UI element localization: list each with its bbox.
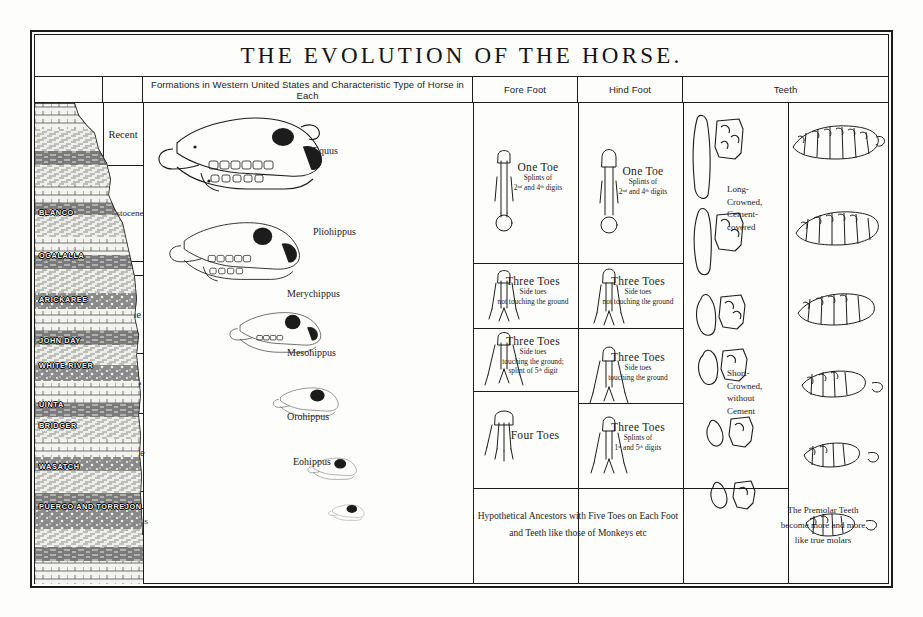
forefoot-3-sub1: Side toes [491,347,575,357]
forefoot-2-sub2: not touching the ground [491,297,575,307]
hindfoot-caption-4: Three Toes Splints of 1ˢᵗ and 5ᵗʰ digits [595,421,681,452]
header-era [35,77,103,102]
forefoot-caption-4: Four Toes [495,429,575,441]
tooth-crown-eohippus [711,481,755,509]
genus-label-merychippus: Merychippus [287,288,340,299]
chart-body: Quaternary or Age of Man Tertiary or Age… [35,103,888,584]
genus-label-equus: Equus [313,145,338,156]
molar-arcade-merychippus [798,294,874,325]
title-band: THE EVOLUTION OF THE HORSE. [35,35,888,77]
skull-equus [159,118,321,191]
forefoot-2-title: Three Toes [491,275,575,287]
header-fore-foot: Fore Foot [473,77,578,102]
skull-pliohippus [170,223,300,281]
premolar-caption-line3: like true molars [758,533,888,548]
hindfoot-4-sub1: Splints of [595,433,681,443]
teeth-note-short-crowned: Short- Crowned, without Cement [727,367,787,417]
forefoot-4-title: Four Toes [495,429,575,441]
hindfoot-caption-3: Three Toes Side toes touching the ground [595,351,681,382]
teeth-note-1-line4: covered [727,221,787,234]
molar-arcade-orohippus [804,443,879,467]
tooth-crown-orohippus [707,417,753,447]
forefoot-caption-2: Three Toes Side toes not touching the gr… [491,275,575,306]
genus-label-mesohippus: Mesohippus [287,347,336,358]
premolar-caption-line2: become more and more [758,518,888,533]
chart-sheet: THE EVOLUTION OF THE HORSE. Formations i… [0,0,923,617]
formation-arickaree: ARICKAREE [39,295,88,304]
formation-john-day: JOHN DAY [39,336,81,345]
header-epoch [103,77,143,102]
horse-skull-series [143,103,473,584]
forefoot-3-title: Three Toes [491,335,575,347]
hindfoot-4-title: Three Toes [595,421,681,433]
genus-label-pliohippus: Pliohippus [313,226,356,237]
premolar-caption: The Premolar Teeth become more and more … [758,503,888,548]
teeth-note-2-line1: Short- [727,367,787,380]
molar-arcade-equus [793,126,885,159]
skull-eohippus [329,505,365,521]
teeth-note-1-line2: Crowned, [727,196,787,209]
hindfoot-3-sub2: touching the ground [595,373,681,383]
hindfoot-1-title: One Toe [605,165,681,177]
geologic-section: BLANCO OGALALLA ARICKAREE JOHN DAY WHITE… [35,103,143,584]
formation-white-river: WHITE RIVER [39,361,93,370]
forefoot-caption-3: Three Toes Side toes touching the ground… [491,335,575,376]
hindfoot-2-sub1: Side toes [595,287,681,297]
genus-label-orohippus: Orohippus [287,411,329,422]
teeth-note-1-line3: Cement- [727,208,787,221]
hindfoot-2-title: Three Toes [595,275,681,287]
hypothetical-caption-line2: and Teeth like those of Monkeys etc [473,525,683,542]
teeth-note-2-line2: Crowned, [727,380,787,393]
formation-blanco: BLANCO [39,208,74,217]
formation-ogalalla: OGALALLA [39,251,84,260]
premolar-caption-line1: The Premolar Teeth [758,503,888,518]
hypothetical-caption-line1: Hypothetical Ancestors with Five Toes on… [473,508,683,525]
genus-label-eohippus: Eohippus [293,456,331,467]
tooth-crown-merychippus [697,295,746,336]
formation-bridger: BRIDGER [39,421,77,430]
hindfoot-2-sub2: not touching the ground [595,297,681,307]
hindfoot-3-title: Three Toes [595,351,681,363]
forefoot-3-sub3: splint of 5ᵗʰ digit [491,366,575,376]
teeth-note-long-crowned: Long- Crowned, Cement- covered [727,183,787,233]
forefoot-1-sub2: 2ⁿᵈ and 4ᵗʰ digits [501,183,575,193]
hypothetical-ancestors-caption: Hypothetical Ancestors with Five Toes on… [473,508,683,542]
formation-puerco-torrejon: PUERCO AND TORREJON [39,502,142,511]
header-teeth: Teeth [683,77,888,102]
column-header-row: Formations in Western United States and … [35,77,888,103]
teeth-note-1-line1: Long- [727,183,787,196]
hindfoot-caption-2: Three Toes Side toes not touching the gr… [595,275,681,306]
hindfoot-1-sub2: 2ⁿᵈ and 4ᵗʰ digits [605,187,681,197]
teeth-note-2-line4: Cement [727,405,787,418]
hindfoot-3-sub1: Side toes [595,363,681,373]
page-title: THE EVOLUTION OF THE HORSE. [241,43,683,69]
forefoot-2-sub1: Side toes [491,287,575,297]
forefoot-caption-1: One Toe Splints of 2ⁿᵈ and 4ᵗʰ digits [501,161,575,192]
header-formations: Formations in Western United States and … [143,77,473,102]
hindfoot-4-sub2: 1ˢᵗ and 5ᵗʰ digits [595,443,681,453]
hindfoot-caption-1: One Toe Splints of 2ⁿᵈ and 4ᵗʰ digits [605,165,681,196]
forefoot-1-sub1: Splints of [501,173,575,183]
molar-arcade-mesohippus [802,371,883,397]
forefoot-1-title: One Toe [501,161,575,173]
formation-uinta: UINTA [39,400,64,409]
forefoot-3-sub2: touching the ground; [491,357,575,367]
teeth-note-2-line3: without [727,392,787,405]
header-hind-foot: Hind Foot [578,77,683,102]
hindfoot-1-sub1: Splints of [605,177,681,187]
formation-wasatch: WASATCH [39,462,80,471]
molar-arcade-pliohippus [796,212,878,245]
